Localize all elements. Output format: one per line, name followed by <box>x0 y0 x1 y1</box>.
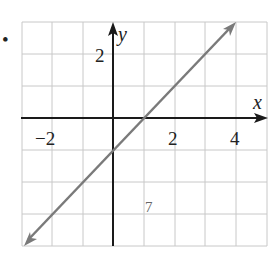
y-tick-2: 2 <box>95 45 105 66</box>
x-tick-4: 4 <box>230 128 240 149</box>
bullet-marker: • <box>2 29 9 50</box>
line-series <box>24 22 236 246</box>
coordinate-plane: • y x 2 −2 2 4 7 <box>0 0 275 263</box>
x-axis-label: x <box>252 91 262 113</box>
x-tick-2: 2 <box>168 128 178 149</box>
x-tick-neg2: −2 <box>35 128 55 149</box>
y-axis-label: y <box>116 23 127 46</box>
handwritten-mark: 7 <box>145 199 153 215</box>
